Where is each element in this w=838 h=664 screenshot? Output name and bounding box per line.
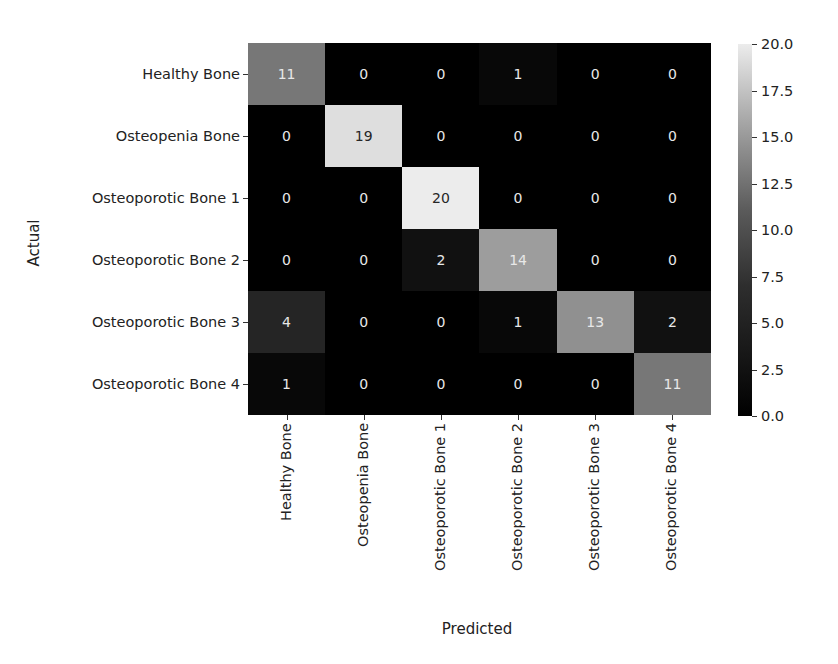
colorbar-tick-label: 15.0 <box>761 129 793 145</box>
colorbar-tick-label: 2.5 <box>761 362 784 378</box>
colorbar-tick-label: 12.5 <box>761 176 793 192</box>
colorbar-tick-mark <box>752 44 757 45</box>
heatmap-grid: 1100100019000000200000021400400113210000… <box>248 43 711 415</box>
x-tick-mark <box>595 415 596 420</box>
colorbar-tick-mark <box>752 184 757 185</box>
y-tick-mark <box>243 384 248 385</box>
y-tick-mark <box>243 322 248 323</box>
heatmap-cell: 0 <box>634 167 711 229</box>
x-tick-label: Osteoporotic Bone 2 <box>509 423 525 571</box>
heatmap-cell: 20 <box>402 167 479 229</box>
y-tick-mark <box>243 198 248 199</box>
colorbar-tick-mark <box>752 370 757 371</box>
heatmap-cell: 0 <box>325 43 402 105</box>
colorbar-tick-label: 17.5 <box>761 83 793 99</box>
x-tick-label: Osteoporotic Bone 1 <box>432 423 448 571</box>
heatmap-cell: 0 <box>325 353 402 415</box>
heatmap-cell: 0 <box>325 167 402 229</box>
y-tick-label: Osteoporotic Bone 1 <box>92 190 240 206</box>
heatmap-cell: 4 <box>248 291 325 353</box>
colorbar-tick-mark <box>752 323 757 324</box>
heatmap-cell: 0 <box>325 229 402 291</box>
heatmap-cell: 0 <box>248 105 325 167</box>
x-tick-mark <box>672 415 673 420</box>
y-tick-label: Osteoporotic Bone 2 <box>92 252 240 268</box>
heatmap-cell: 0 <box>634 229 711 291</box>
x-tick-label: Osteopenia Bone <box>355 423 371 547</box>
heatmap-cell: 13 <box>557 291 634 353</box>
heatmap-cell: 0 <box>479 167 556 229</box>
heatmap-cell: 11 <box>634 353 711 415</box>
heatmap-cell: 0 <box>557 43 634 105</box>
heatmap-cell: 0 <box>402 291 479 353</box>
heatmap-cell: 0 <box>402 105 479 167</box>
heatmap-cell: 0 <box>557 105 634 167</box>
colorbar-tick-mark <box>752 91 757 92</box>
heatmap-cell: 1 <box>479 43 556 105</box>
heatmap-cell: 0 <box>248 167 325 229</box>
y-tick-mark <box>243 260 248 261</box>
y-axis-title: Actual <box>25 220 43 267</box>
colorbar-tick-mark <box>752 230 757 231</box>
heatmap-cell: 14 <box>479 229 556 291</box>
y-tick-label: Osteopenia Bone <box>116 128 240 144</box>
heatmap-cell: 0 <box>479 353 556 415</box>
heatmap-cell: 0 <box>557 353 634 415</box>
heatmap-cell: 0 <box>402 353 479 415</box>
heatmap-cell: 0 <box>479 105 556 167</box>
colorbar-tick-label: 0.0 <box>761 408 784 424</box>
heatmap-cell: 0 <box>634 105 711 167</box>
x-tick-label: Healthy Bone <box>278 423 294 521</box>
colorbar-tick-mark <box>752 137 757 138</box>
heatmap-cell: 0 <box>557 229 634 291</box>
x-axis-title: Predicted <box>442 620 512 638</box>
x-tick-mark <box>287 415 288 420</box>
x-tick-label: Osteoporotic Bone 3 <box>586 423 602 571</box>
heatmap-cell: 0 <box>634 43 711 105</box>
heatmap-cell: 2 <box>634 291 711 353</box>
colorbar-tick-label: 5.0 <box>761 315 784 331</box>
colorbar-tick-label: 10.0 <box>761 222 793 238</box>
colorbar-tick-label: 7.5 <box>761 269 784 285</box>
heatmap-cell: 0 <box>557 167 634 229</box>
colorbar-tick-mark <box>752 277 757 278</box>
heatmap-cell: 0 <box>402 43 479 105</box>
heatmap-cell: 0 <box>325 291 402 353</box>
heatmap-cell: 0 <box>248 229 325 291</box>
heatmap-cell: 2 <box>402 229 479 291</box>
heatmap-cell: 1 <box>479 291 556 353</box>
heatmap-cell: 1 <box>248 353 325 415</box>
x-tick-mark <box>441 415 442 420</box>
colorbar-tick-mark <box>752 416 757 417</box>
colorbar-tick-label: 20.0 <box>761 36 793 52</box>
y-tick-mark <box>243 74 248 75</box>
y-tick-mark <box>243 136 248 137</box>
heatmap-cell: 19 <box>325 105 402 167</box>
y-tick-label: Healthy Bone <box>142 66 240 82</box>
colorbar <box>738 44 752 416</box>
x-tick-label: Osteoporotic Bone 4 <box>663 423 679 571</box>
x-tick-mark <box>364 415 365 420</box>
y-tick-label: Osteoporotic Bone 4 <box>92 376 240 392</box>
heatmap-cell: 11 <box>248 43 325 105</box>
y-tick-label: Osteoporotic Bone 3 <box>92 314 240 330</box>
x-tick-mark <box>518 415 519 420</box>
